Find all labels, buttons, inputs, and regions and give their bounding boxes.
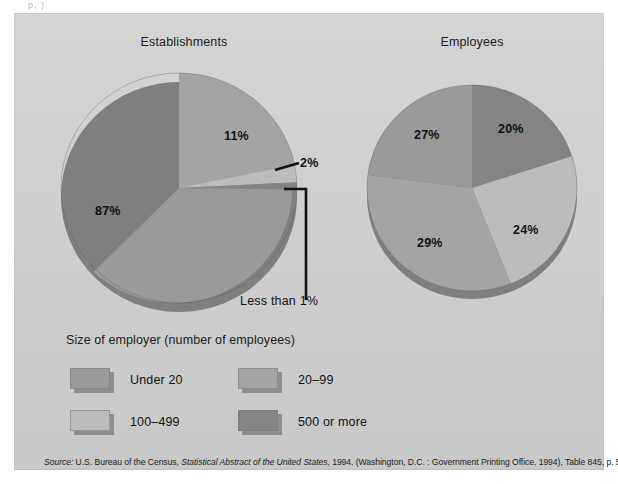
legend-label-100-499: 100–499 — [130, 415, 180, 429]
source-publication-title: Statistical Abstract of the United State… — [181, 457, 330, 467]
legend-item-under-20[interactable]: Under 20 — [70, 365, 238, 395]
leader-dash-2-percent — [275, 161, 303, 175]
legend-item-500-or-more[interactable]: 500 or more — [238, 407, 428, 437]
figure-panel: Establishments Employees 87% — [14, 13, 604, 470]
pie-chart-employees: 20% 24% 29% 27% — [362, 75, 592, 305]
legend-swatch-under-20 — [70, 368, 114, 393]
legend-row: 100–499 500 or more — [70, 407, 490, 449]
legend-swatch-100-499 — [70, 410, 114, 435]
legend: Under 20 20–99 100–499 — [70, 365, 490, 449]
slice-value-29: 29% — [417, 236, 443, 250]
pie-chart-establishments: 87% 11% 2% — [47, 57, 317, 327]
legend-title: Size of employer (number of employees) — [66, 333, 295, 347]
legend-label-under-20: Under 20 — [130, 373, 183, 387]
chart-title-establishments: Establishments — [104, 35, 264, 49]
legend-swatch-500-or-more — [238, 410, 282, 435]
chart-title-employees: Employees — [406, 35, 538, 49]
slice-value-20: 20% — [498, 122, 524, 136]
swatch-face — [70, 368, 110, 389]
pie-svg-employees — [362, 75, 592, 305]
legend-label-20-99: 20–99 — [298, 373, 334, 387]
legend-item-100-499[interactable]: 100–499 — [70, 407, 238, 437]
pie-svg-establishments — [47, 57, 317, 327]
slice-value-24: 24% — [513, 223, 539, 237]
source-note: Source: U.S. Bureau of the Census, Stati… — [44, 457, 600, 467]
source-text-before: U.S. Bureau of the Census, — [73, 457, 181, 467]
source-text-after: 1994. (Washington, D.C. : Government Pri… — [330, 457, 618, 467]
legend-item-20-99[interactable]: 20–99 — [238, 365, 428, 395]
swatch-face — [70, 410, 110, 431]
figure-root: p, ) Establishments Employees — [0, 0, 618, 484]
slice-value-27: 27% — [414, 128, 440, 142]
source-prefix: Source: — [44, 457, 73, 467]
scan-artifact: p, ) — [28, 0, 62, 10]
legend-label-500-or-more: 500 or more — [298, 415, 367, 429]
swatch-face — [238, 368, 278, 389]
legend-swatch-20-99 — [238, 368, 282, 393]
slice-value-87: 87% — [95, 204, 121, 218]
slice-value-11: 11% — [224, 129, 249, 143]
legend-row: Under 20 20–99 — [70, 365, 490, 407]
swatch-face — [238, 410, 278, 431]
callout-less-than-1-percent: Less than 1% — [240, 294, 318, 308]
